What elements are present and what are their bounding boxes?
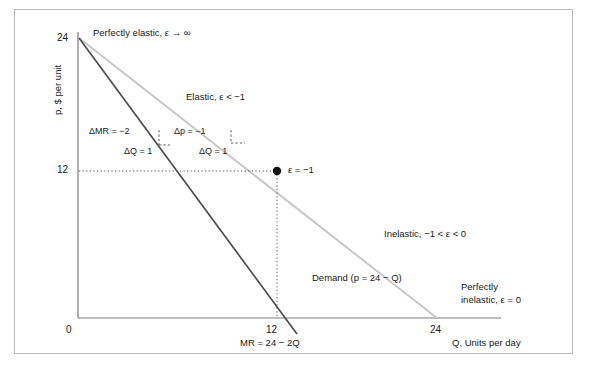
label-perfectly-inelastic-line2: inelastic, ε = 0 (461, 294, 521, 305)
x-tick-24: 24 (430, 324, 441, 335)
label-mr-curve: MR = 24 − 2Q (240, 337, 300, 349)
mr-curve-line (79, 38, 297, 334)
x-tick-0: 0 (66, 324, 72, 335)
label-unit-elastic: ε = −1 (288, 164, 314, 176)
y-axis-title: p, $ per unit (52, 65, 63, 115)
label-demand-curve: Demand (p = 24 − Q) (312, 272, 402, 284)
label-delta-p: Δp = −1 (174, 126, 206, 138)
label-inelastic: Inelastic, −1 < ε < 0 (384, 228, 466, 240)
figure-container: p, $ per unit Q, Units per day 24 12 0 1… (0, 0, 589, 367)
chart-canvas (0, 0, 589, 367)
x-axis-title: Q, Units per day (452, 337, 521, 348)
unit-elastic-point-marker (273, 167, 281, 175)
label-perfectly-elastic: Perfectly elastic, ε → ∞ (93, 27, 191, 39)
label-perfectly-inelastic-line1: Perfectly (461, 281, 498, 292)
label-delta-q-demand: ΔQ = 1 (199, 146, 227, 158)
label-delta-mr: ΔMR = −2 (89, 126, 130, 138)
y-tick-12: 12 (57, 164, 68, 175)
label-elastic: Elastic, ε < −1 (186, 91, 245, 103)
label-perfectly-inelastic: Perfectly inelastic, ε = 0 (461, 281, 521, 307)
x-tick-12: 12 (266, 324, 277, 335)
label-delta-q-mr: ΔQ = 1 (124, 146, 152, 158)
y-tick-24: 24 (57, 32, 68, 43)
